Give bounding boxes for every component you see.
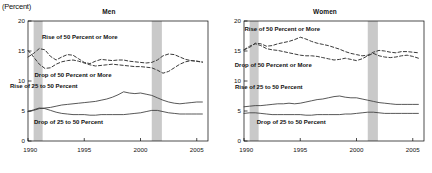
y-tick-label: 5 bbox=[22, 107, 26, 114]
y-tick-label: 5 bbox=[238, 107, 242, 114]
series-annotation-drop-of-25-to-50-percent: Drop of 25 to 50 Percent bbox=[257, 119, 326, 125]
series-line-drop-of-25-to-50-percent bbox=[244, 112, 418, 115]
series-annotation-rise-of-50-percent-or-more: Rise of 50 Percent or More bbox=[244, 26, 320, 32]
x-tick-label: 1995 bbox=[77, 146, 91, 153]
x-axis-labels-men: 1990199520002005 bbox=[6, 146, 212, 158]
chart-panel-men: Men 05101520Rise of 50 Percent or MoreDr… bbox=[6, 8, 212, 168]
plot-svg-men: 05101520Rise of 50 Percent or MoreDrop o… bbox=[6, 17, 212, 145]
shaded-region-recession-2001 bbox=[152, 21, 162, 141]
y-tick-label: 15 bbox=[18, 47, 25, 54]
x-tick-label: 1995 bbox=[293, 146, 307, 153]
y-tick-label: 20 bbox=[234, 17, 241, 24]
chart-title-men: Men bbox=[6, 8, 212, 15]
y-tick-label: 0 bbox=[22, 137, 26, 144]
x-tick-label: 2005 bbox=[406, 146, 420, 153]
shaded-region-recession-2001 bbox=[368, 21, 378, 141]
x-tick-label: 2000 bbox=[134, 146, 148, 153]
series-annotation-drop-of-25-to-50-percent: Drop of 25 to 50 Percent bbox=[34, 119, 103, 125]
x-axis-labels-women: 1990199520002005 bbox=[222, 146, 428, 158]
series-line-rise-of-50-percent-or-more bbox=[244, 37, 418, 56]
plot-svg-women: 05101520Rise of 50 Percent or MoreDrop o… bbox=[222, 17, 428, 145]
series-annotation-rise-of-25-to-50-percent: Rise of 25 to 50 Percent bbox=[10, 83, 78, 89]
series-annotation-rise-of-50-percent-or-more: Rise of 50 Percent or More bbox=[42, 34, 118, 40]
y-tick-label: 20 bbox=[18, 17, 25, 24]
x-tick-label: 1990 bbox=[23, 146, 37, 153]
series-line-rise-of-25-to-50-percent bbox=[28, 92, 202, 112]
y-tick-label: 15 bbox=[234, 47, 241, 54]
series-annotation-rise-of-25-to-50-percent: Rise of 25 to 50 Percent bbox=[235, 84, 303, 90]
x-tick-label: 1990 bbox=[239, 146, 253, 153]
x-tick-label: 2005 bbox=[190, 146, 204, 153]
series-line-drop-of-25-to-50-percent bbox=[28, 108, 202, 115]
series-annotation-drop-of-50-percent-or-more: Drop of 50 Percent or More bbox=[235, 62, 313, 68]
series-annotation-drop-of-50-percent-or-more: Drop of 50 Percent or More bbox=[34, 72, 112, 78]
series-line-drop-of-50-percent-or-more bbox=[28, 50, 202, 73]
series-line-rise-of-25-to-50-percent bbox=[244, 96, 418, 107]
chart-title-women: Women bbox=[222, 8, 428, 15]
series-line-rise-of-50-percent-or-more bbox=[28, 49, 202, 64]
plot-area-men: 05101520Rise of 50 Percent or MoreDrop o… bbox=[6, 17, 212, 145]
y-tick-label: 10 bbox=[234, 77, 241, 84]
plot-area-women: 05101520Rise of 50 Percent or MoreDrop o… bbox=[222, 17, 428, 145]
y-tick-label: 0 bbox=[238, 137, 242, 144]
x-tick-label: 2000 bbox=[350, 146, 364, 153]
chart-panel-women: Women 05101520Rise of 50 Percent or More… bbox=[222, 8, 428, 168]
